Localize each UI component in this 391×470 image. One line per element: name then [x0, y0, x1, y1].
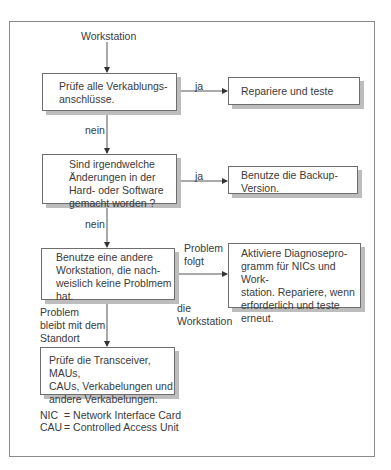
node-run-diagnostics: Aktiviere Diagnosepro- gramm für NICs un…	[228, 243, 361, 308]
legend-abbr-cau: CAU	[40, 421, 62, 433]
edge-label-the-workstation: die Workstation	[177, 302, 232, 328]
legend-meaning-nic: = Network Interface Card	[64, 409, 181, 421]
legend-meaning-cau: = Controlled Access Unit	[64, 421, 179, 433]
node-use-backup: Benutze die Backup- Version.	[228, 166, 358, 194]
start-label: Workstation	[81, 30, 136, 43]
edge-label-ja-1: ja	[195, 80, 203, 93]
node-check-cabling: Prüfe alle Verkablungs- anschlüsse.	[42, 73, 177, 111]
edge-label-nein-2: nein	[85, 218, 105, 231]
edge-label-problem-stays: Problem bleibt mit dem Standort	[40, 306, 105, 345]
edge-label-nein-1: nein	[85, 124, 105, 137]
edge-label-problem-follows: Problem folgt	[184, 242, 223, 268]
node-changes-made: Sind irgendwelche Änderungen in der Hard…	[42, 154, 177, 204]
legend-abbr-nic: NIC	[40, 409, 58, 421]
edge-label-ja-2: ja	[195, 170, 203, 183]
node-other-workstation: Benutze eine andere Workstation, die nac…	[41, 248, 175, 300]
node-check-transceivers: Prüfe die Transceiver, MAUs, CAUs, Verka…	[40, 347, 175, 395]
node-repair-test: Repariere und teste	[228, 77, 360, 105]
